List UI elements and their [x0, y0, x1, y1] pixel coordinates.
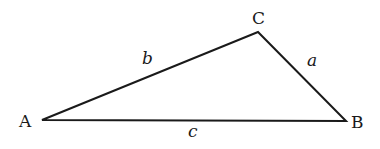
triangle-abc [42, 32, 346, 121]
vertex-label-c: C [252, 8, 265, 28]
vertex-label-a: A [18, 111, 32, 131]
side-label-a: a [307, 50, 317, 70]
side-label-b: b [142, 48, 153, 68]
side-label-c: c [188, 121, 198, 141]
vertex-label-b: B [351, 112, 364, 132]
triangle-diagram: A B C a b c [0, 0, 380, 149]
